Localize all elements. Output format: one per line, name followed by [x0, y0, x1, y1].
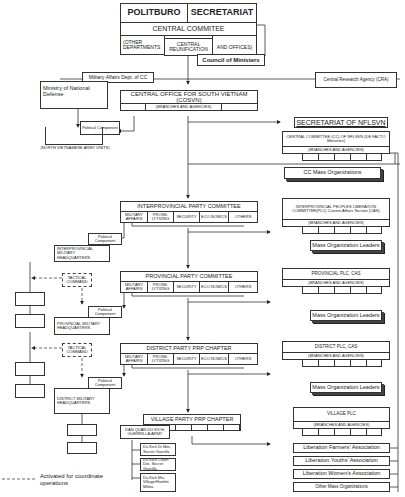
section-economics: ECO-NOMICS [199, 353, 229, 365]
secret-guerilla-1-box: Du Kich Di Mot, Secret Guerilla [140, 443, 176, 456]
section-security: SECURITY [173, 211, 200, 223]
tactical-command-2: TACTICAL COMMAND [62, 343, 92, 357]
district-unit-2 [67, 442, 97, 454]
village-plc-subcells [302, 428, 382, 436]
legend-dashed-label: Activated for coordinate operations [40, 473, 110, 487]
interprovincial-mass-org-leaders: Mass Organization Leaders [310, 240, 382, 251]
district-plc-subcells [302, 359, 382, 367]
nflsvn-subcells [302, 153, 382, 161]
district-unit-1 [67, 424, 97, 436]
section-proselytizing: PROSE-LYTIZING [147, 281, 174, 293]
provincial-plc-subcells [302, 286, 382, 294]
section-military-affairs: MILITARY AFFAIRS [120, 353, 148, 365]
section-economics: ECO-NOMICS [199, 281, 229, 293]
interprovincial-political-component: Political Component [88, 233, 122, 245]
association-other: Other Mass Organizations [293, 482, 390, 492]
interprovincial-plc-subcells [302, 226, 382, 234]
section-others: OTHERS [228, 353, 258, 365]
cosvn-branches: (BRANCHES AND AGENCIES) [145, 103, 222, 111]
association-youths: Liberation Youths' Association [293, 456, 390, 466]
district-military-hq: DISTRICT MILITARY HEADQUARTERS [54, 388, 110, 414]
nva-units-box [45, 127, 103, 145]
cc-mass-organizations-box: CC Mass Organizations [284, 167, 381, 179]
section-proselytizing: PROSE-LYTIZING [147, 353, 174, 365]
central-research-agency-box: Central Research Agency (CRA) [315, 72, 397, 88]
secretariat-nflsvn-box: SECRETARIAT OF NFLSVN [294, 117, 388, 128]
section-proselytizing: PROSE-LYTIZING [147, 211, 174, 223]
section-others: OTHERS [228, 281, 258, 293]
provincial-unit-2 [15, 384, 45, 398]
association-women: Liberation Women's Association [293, 469, 390, 479]
section-others: OTHERS [228, 211, 258, 223]
section-military-affairs: MILITARY AFFAIRS [120, 211, 148, 223]
dan-quan-du-kich-box: DAN QUAN DU KICH, GUERRILLA ARMY [120, 425, 170, 439]
tactical-command-1: TACTICAL COMMAND [62, 273, 92, 287]
politburo-box: POLITBURO [120, 3, 188, 23]
ministry-of-defense-box: Ministry of National Defense [40, 81, 108, 109]
and-offices-box: AND OFFICES) [212, 35, 257, 55]
section-security: SECURITY [173, 353, 200, 365]
nflsvn-central-committee-box: CENTRAL COMMITTEE (CC) OF NFLSVN (DE FAC… [282, 131, 390, 147]
provincial-military-hq: PROVINCIAL MILITARY HEADQUARTERS [54, 317, 110, 335]
nva-units-label: (NORTH VIETNAMESE ARMY UNITS) [40, 146, 110, 150]
interprovincial-military-hq: INTERPROVINCIAL MILITARY HEADQUARTERS [54, 245, 110, 262]
central-committee-box: CENTRAL COMMITEE [120, 22, 257, 36]
secret-guerilla-2-box: Du Kich Chien Dot, Secret Guerilla [140, 458, 176, 471]
interprovincial-plc-box: INTERPROVINCIAL PEOPLES LIBERATION COMMI… [282, 198, 390, 220]
secretariat-box: SECRETARIAT [187, 3, 257, 23]
section-economics: ECO-NOMICS [199, 211, 229, 223]
other-departments-box: (OTHER DEPARTMENTS [120, 35, 165, 55]
provincial-unit-1 [15, 362, 45, 376]
interprovincial-unit-1 [15, 292, 45, 306]
provincial-mass-org-leaders: Mass Organization Leaders [310, 310, 382, 321]
association-farmers: Liberation Farmers' Association [293, 443, 390, 453]
cosvn-cell-3 [221, 103, 258, 111]
council-of-ministers-box: Council of Ministers [197, 54, 265, 66]
interprovincial-unit-2 [15, 314, 45, 328]
village-plc-box: VILLAGE PLC [293, 407, 390, 422]
section-military-affairs: MILITARY AFFAIRS [120, 281, 148, 293]
section-security: SECURITY [173, 281, 200, 293]
district-mass-org-leaders: Mass Organization Leaders [310, 382, 382, 393]
hamlet-militia-box: Du Kich Mo, Village/Hamlet Militia [140, 473, 176, 492]
cosvn-cell-1 [120, 103, 146, 111]
cosvn-box: CENTRAL OFFICE FOR SOUTH VIETNAM (COSVN) [120, 90, 258, 104]
